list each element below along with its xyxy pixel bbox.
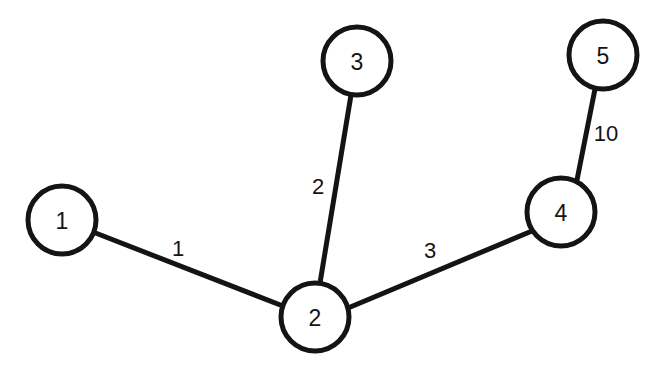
node-label-5: 5	[597, 43, 610, 69]
graph-node-4: 4	[527, 178, 595, 246]
edge-layer	[93, 89, 595, 308]
graph-edge-3-2	[320, 95, 351, 283]
graph-node-2: 2	[281, 283, 349, 351]
graph-diagram-canvas: 12345 12310	[0, 0, 657, 376]
edge-weight-label-2-4: 3	[424, 238, 436, 263]
graph-node-1: 1	[28, 186, 96, 254]
graph-edge-2-4	[348, 231, 532, 308]
graph-edge-1-2	[93, 232, 288, 308]
node-label-3: 3	[351, 49, 364, 75]
node-layer: 12345	[28, 21, 637, 351]
graph-node-3: 3	[323, 27, 391, 95]
graph-edge-5-4	[577, 89, 595, 180]
edge-weight-label-1-2: 1	[172, 236, 184, 261]
node-label-4: 4	[555, 200, 568, 226]
node-label-1: 1	[56, 208, 69, 234]
graph-node-5: 5	[569, 21, 637, 89]
edge-weight-label-3-2: 2	[312, 174, 324, 199]
node-label-2: 2	[309, 305, 322, 331]
graph-diagram: 12345 12310	[0, 0, 657, 376]
edge-weight-label-5-4: 10	[594, 121, 618, 146]
